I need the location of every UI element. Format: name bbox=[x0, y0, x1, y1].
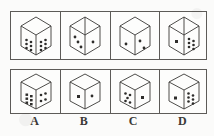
die-top-a bbox=[18, 15, 54, 57]
die-bottom-a bbox=[18, 72, 54, 112]
dice-figure: A B C D bbox=[0, 0, 214, 136]
die-top-d-left-pips bbox=[175, 40, 178, 43]
cell-bottom-a bbox=[11, 70, 60, 113]
die-bottom-d-svg bbox=[166, 72, 202, 112]
cell-top-d bbox=[159, 12, 208, 59]
die-top-b-right-pips bbox=[92, 40, 95, 43]
die-bottom-c bbox=[117, 72, 153, 112]
die-top-b-svg bbox=[67, 15, 103, 57]
die-bottom-c-right-pips bbox=[141, 96, 144, 99]
label-b: B bbox=[59, 114, 108, 129]
die-bottom-c-svg bbox=[117, 72, 153, 112]
die-bottom-a-svg bbox=[18, 72, 54, 112]
label-c: C bbox=[109, 114, 158, 129]
die-top-d-svg bbox=[166, 15, 202, 57]
option-labels: A B C D bbox=[10, 114, 207, 134]
die-bottom-b bbox=[67, 72, 103, 112]
die-top-a-svg bbox=[18, 15, 54, 57]
cell-top-a bbox=[11, 12, 60, 59]
die-top-c-left-pips bbox=[124, 42, 127, 45]
cell-bottom-b bbox=[60, 70, 109, 113]
die-top-c bbox=[117, 15, 153, 57]
die-bottom-a-right-pips bbox=[39, 92, 46, 102]
cell-top-b bbox=[60, 12, 109, 59]
die-bottom-d bbox=[166, 72, 202, 112]
bottom-row-frame bbox=[10, 69, 207, 114]
label-a: A bbox=[10, 114, 59, 129]
die-bottom-b-right-pips bbox=[91, 94, 94, 97]
die-top-d-right-pips bbox=[188, 37, 195, 50]
cell-top-c bbox=[110, 12, 159, 59]
die-top-c-svg bbox=[117, 15, 153, 57]
die-bottom-d-left-pips bbox=[174, 96, 177, 99]
die-top-d bbox=[166, 15, 202, 57]
die-bottom-a-left-pips bbox=[25, 93, 32, 105]
die-top-b bbox=[67, 15, 103, 57]
die-top-c-right-pips bbox=[138, 39, 145, 49]
top-row-frame bbox=[10, 11, 207, 60]
die-bottom-b-left-pips bbox=[77, 95, 80, 98]
die-bottom-c-left-pips bbox=[124, 92, 131, 104]
die-top-b-left-pips bbox=[74, 35, 83, 48]
cell-bottom-c bbox=[110, 70, 159, 113]
die-bottom-b-svg bbox=[67, 72, 103, 112]
cell-bottom-d bbox=[159, 70, 208, 113]
die-bottom-d-right-pips bbox=[187, 92, 194, 105]
label-d: D bbox=[158, 114, 207, 129]
